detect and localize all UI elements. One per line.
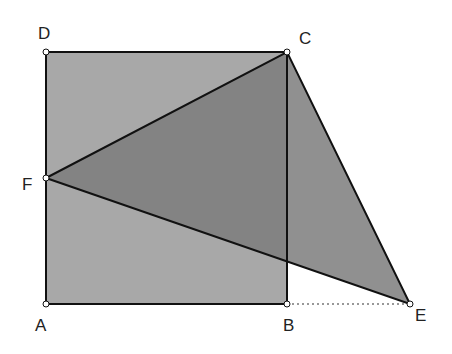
label-c: C xyxy=(299,29,311,48)
geometry-diagram: D C F A B E xyxy=(0,0,452,354)
label-b: B xyxy=(283,316,294,335)
point-d xyxy=(43,49,49,55)
point-f xyxy=(43,175,49,181)
point-e xyxy=(407,301,413,307)
label-e: E xyxy=(415,306,426,325)
label-a: A xyxy=(35,316,47,335)
point-c xyxy=(284,49,290,55)
label-f: F xyxy=(22,175,32,194)
point-b xyxy=(284,301,290,307)
label-d: D xyxy=(38,24,50,43)
point-a xyxy=(43,301,49,307)
